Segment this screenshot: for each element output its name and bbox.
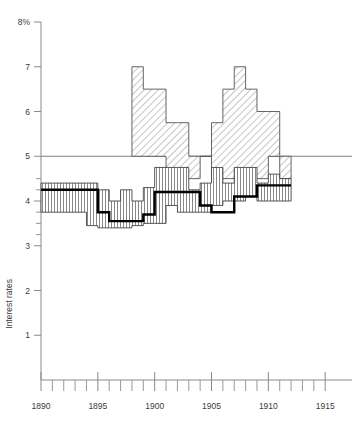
y-tick-label: 5 xyxy=(25,151,30,161)
x-tick-label: 1915 xyxy=(316,401,335,411)
x-tick-label: 1905 xyxy=(202,401,221,411)
y-tick-label: 3 xyxy=(25,241,30,251)
interest-rates-chart: 12345678%189018951900190519101915Interes… xyxy=(0,0,362,428)
upper-range-band xyxy=(132,67,291,179)
y-tick-label: 8% xyxy=(18,17,31,27)
data-bands-layer xyxy=(41,67,291,228)
x-tick-label: 1890 xyxy=(32,401,51,411)
axis-labels-layer: 12345678%189018951900190519101915Interes… xyxy=(4,17,335,411)
y-tick-label: 2 xyxy=(25,286,30,296)
chart-canvas: 12345678%189018951900190519101915Interes… xyxy=(0,0,362,428)
y-tick-label: 4 xyxy=(25,196,30,206)
y-axis-title: Interest rates xyxy=(4,279,14,329)
x-tick-label: 1910 xyxy=(259,401,278,411)
y-tick-label: 1 xyxy=(25,330,30,340)
x-tick-label: 1895 xyxy=(88,401,107,411)
y-tick-label: 7 xyxy=(25,62,30,72)
y-tick-label: 6 xyxy=(25,107,30,117)
x-tick-label: 1900 xyxy=(145,401,164,411)
